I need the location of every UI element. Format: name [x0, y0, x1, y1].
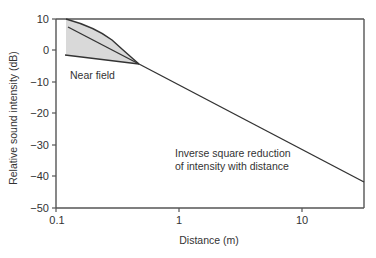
- near-field-shaded-region: [66, 19, 139, 64]
- inverse-square-label-line2: of intensity with distance: [175, 160, 289, 172]
- x-axis-title: Distance (m): [179, 234, 239, 246]
- chart: 10 0 −10 −20 −30 −40 −50 0.1 1 10 Distan…: [0, 0, 376, 258]
- inverse-square-label-line1: Inverse square reduction: [175, 147, 291, 159]
- y-tick-label: −30: [30, 139, 49, 151]
- near-field-label: Near field: [70, 69, 115, 81]
- y-axis-title: Relative sound intensity (dB): [7, 51, 19, 185]
- y-axis-tick-labels: 10 0 −10 −20 −30 −40 −50: [30, 13, 49, 214]
- x-tick-label: 10: [296, 214, 308, 226]
- x-tick-label: 1: [176, 214, 182, 226]
- x-axis-tick-labels: 0.1 1 10: [49, 214, 308, 226]
- y-tick-label: −50: [30, 202, 49, 214]
- y-tick-label: −10: [30, 76, 49, 88]
- y-tick-label: 0: [43, 44, 49, 56]
- y-tick-label: −40: [30, 170, 49, 182]
- y-tick-label: 10: [37, 13, 49, 25]
- x-tick-label: 0.1: [49, 214, 64, 226]
- y-tick-label: −20: [30, 107, 49, 119]
